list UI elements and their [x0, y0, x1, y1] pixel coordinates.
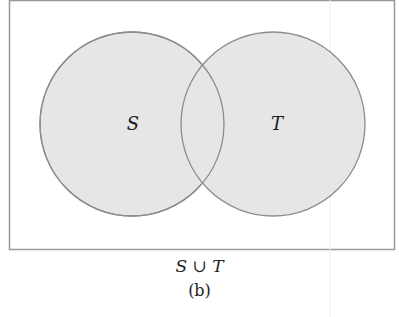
set-t-label: T [271, 113, 285, 134]
caption-expression: S ∪ T [0, 256, 399, 276]
set-s-label: S [127, 113, 139, 134]
caption-label: (b) [0, 281, 399, 300]
